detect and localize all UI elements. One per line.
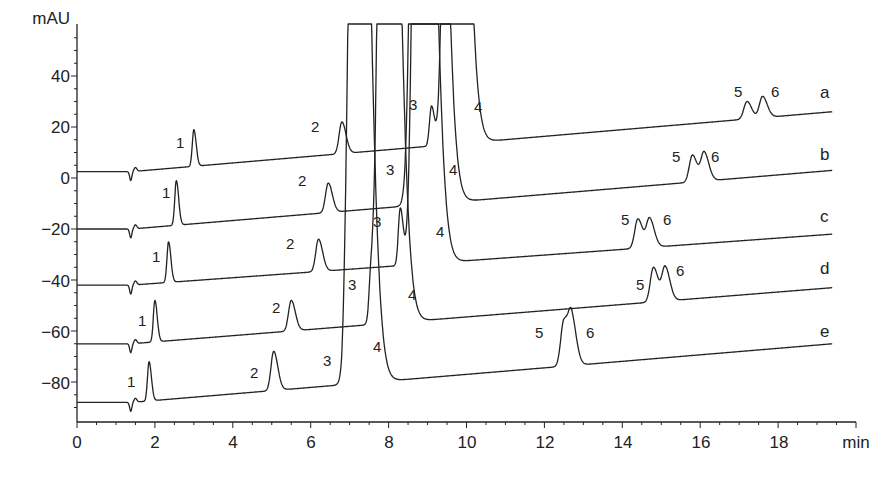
x-tick-label: 0	[72, 433, 81, 452]
peak-label: 2	[286, 235, 294, 252]
peak-label: 3	[409, 96, 417, 113]
peak-label: 3	[323, 352, 331, 369]
peak-label: 2	[298, 172, 306, 189]
x-tick-label: 14	[614, 433, 633, 452]
peak-label: 1	[127, 373, 135, 390]
peak-label: 3	[348, 276, 356, 293]
peak-label: 3	[386, 161, 394, 178]
y-tick-label: 0	[61, 169, 70, 188]
trace-label-a: a	[820, 83, 830, 102]
y-tick-label: −60	[41, 323, 70, 342]
peak-label: 2	[250, 364, 258, 381]
peak-label: 5	[636, 276, 644, 293]
trace-label-e: e	[820, 322, 829, 341]
peak-label: 1	[176, 134, 184, 151]
peak-label: 3	[373, 213, 381, 230]
x-axis: 0 2 4 6 8 10 12 14 16 18 min	[72, 422, 869, 452]
peak-label: 2	[272, 299, 280, 316]
y-tick-label: −20	[41, 220, 70, 239]
x-axis-unit: min	[842, 433, 869, 452]
x-tick-label: 4	[228, 433, 237, 452]
peak-label: 6	[711, 148, 719, 165]
y-tick-label: 20	[51, 118, 70, 137]
peak-label: 6	[586, 324, 594, 341]
peak-label: 1	[138, 312, 146, 329]
y-tick-label: 40	[51, 67, 70, 86]
x-tick-label: 16	[692, 433, 711, 452]
x-tick-label: 8	[384, 433, 393, 452]
peak-label: 4	[408, 286, 416, 303]
trace-d	[77, 24, 832, 353]
peak-label: 5	[734, 83, 742, 100]
y-axis: mAU 40 20 0 −20 −40 −60 −80	[32, 9, 77, 422]
peak-label: 5	[672, 148, 680, 165]
trace-label-d: d	[820, 259, 829, 278]
x-tick-label: 10	[458, 433, 477, 452]
y-tick-label: −80	[41, 374, 70, 393]
peak-label: 4	[373, 338, 381, 355]
peak-label: 1	[162, 184, 170, 201]
y-axis-unit: mAU	[32, 9, 70, 28]
x-tick-label: 2	[150, 433, 159, 452]
trace-label-b: b	[820, 145, 829, 164]
y-tick-label: −40	[41, 272, 70, 291]
peak-label: 2	[311, 118, 319, 135]
trace-group	[77, 24, 832, 411]
peak-label: 6	[663, 211, 671, 228]
trace-b	[77, 24, 832, 238]
peak-label: 1	[152, 248, 160, 265]
chromatogram-chart: mAU 40 20 0 −20 −40 −60 −80 0 2 4 6 8 10…	[0, 0, 886, 478]
trace-e	[77, 24, 832, 411]
peak-label: 5	[621, 211, 629, 228]
x-tick-label: 6	[306, 433, 315, 452]
x-tick-label: 18	[770, 433, 789, 452]
peak-label: 4	[474, 98, 482, 115]
peak-label: 4	[449, 161, 457, 178]
peak-label: 4	[436, 223, 444, 240]
x-tick-label: 12	[536, 433, 555, 452]
peak-label: 6	[676, 262, 684, 279]
trace-label-c: c	[820, 207, 829, 226]
peak-label: 5	[535, 324, 543, 341]
peak-label: 6	[771, 83, 779, 100]
